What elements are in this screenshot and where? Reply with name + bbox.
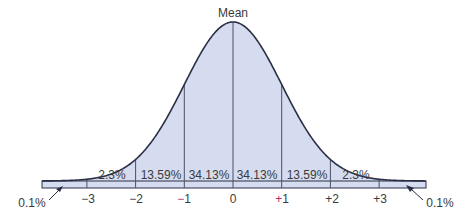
tick-num-m1: 1 [184, 192, 191, 206]
pct-label-0-p1: 34.13% [237, 168, 278, 182]
baseline-band [42, 181, 426, 188]
pct-label-m1-0: 34.13% [189, 168, 230, 182]
tick-label-p3: +3 [373, 192, 387, 206]
mean-label: Mean [218, 6, 248, 20]
tick-label-m2: −2 [129, 192, 143, 206]
tick-label-p2: +2 [325, 192, 339, 206]
tick-sign-m1: − [177, 192, 184, 206]
tick-label-m3: −3 [81, 192, 95, 206]
right-tail-label: 0.1% [426, 196, 454, 210]
tick-sign-p1: + [275, 192, 282, 206]
tick-label-m1: −1 [177, 192, 191, 206]
pct-label-p1-p2: 13.59% [287, 168, 328, 182]
normal-distribution-chart: Mean 2.3% 13.59% 34.13% 34.13% 13.59% 2.… [0, 0, 473, 215]
tick-label-p1: +1 [275, 192, 289, 206]
pct-label-m3-m2: 2.3% [98, 168, 126, 182]
tick-label-0: 0 [230, 192, 237, 206]
left-tail-label: 0.1% [18, 196, 46, 210]
pct-label-m2-m1: 13.59% [141, 168, 182, 182]
curve-fill-area [42, 22, 426, 181]
tick-num-p1: 1 [282, 192, 289, 206]
pct-label-p2-p3: 2.3% [342, 168, 370, 182]
